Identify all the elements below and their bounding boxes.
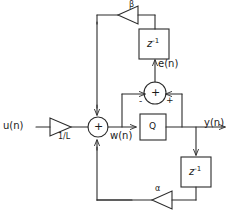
label-output-signal: y(n) xyxy=(204,118,224,128)
label-delay-error: z-1 xyxy=(147,38,159,49)
label-quantizer: Q xyxy=(149,122,156,131)
label-adder-error-sign: + xyxy=(151,87,160,98)
delay-error-exponent: -1 xyxy=(152,37,159,45)
label-gain-beta: β xyxy=(129,1,134,9)
label-adder-error-plus: + xyxy=(166,96,174,105)
gain-triangle-beta xyxy=(118,6,138,24)
label-node-w: w(n) xyxy=(110,131,132,141)
label-input-signal: u(n) xyxy=(3,121,23,131)
label-adder-error-minus: - xyxy=(139,97,142,106)
block-diagram-canvas: u(n) 1/L + w(n) Q y(n) + - + e(n) z-1 z-… xyxy=(0,0,242,215)
delay-output-exponent: -1 xyxy=(194,165,201,173)
diagram-vector-layer xyxy=(0,0,242,215)
label-error-signal: e(n) xyxy=(158,59,178,69)
label-gain-alpha: α xyxy=(155,185,160,193)
label-gain-input: 1/L xyxy=(58,133,70,141)
label-adder-main-sign: + xyxy=(94,121,103,132)
label-delay-output: z-1 xyxy=(189,166,201,177)
gain-triangle-alpha xyxy=(152,191,172,209)
